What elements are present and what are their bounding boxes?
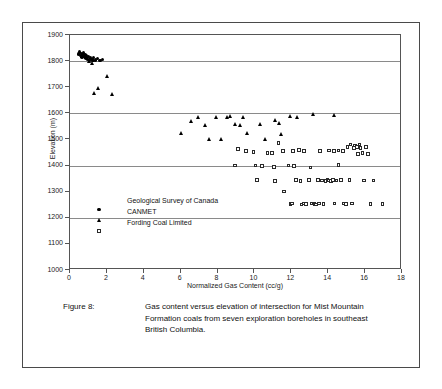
data-point-square <box>346 145 350 149</box>
x-axis-tick-label: 0 <box>57 274 81 281</box>
data-point-triangle <box>207 137 211 141</box>
data-point-triangle <box>105 74 109 78</box>
y-axis-tick-mark <box>65 34 69 35</box>
data-point-square <box>359 146 363 150</box>
x-axis-tick-mark <box>143 269 144 273</box>
chart-legend: Geological Survey of Canada CANMET Fordi… <box>85 195 245 228</box>
data-point-square <box>316 178 320 182</box>
data-point-triangle <box>295 115 299 119</box>
data-point-square <box>333 202 337 206</box>
y-axis-tick-label: 1200 <box>23 213 63 220</box>
data-point-triangle <box>273 118 277 122</box>
x-axis-tick-label: 16 <box>352 274 376 281</box>
x-axis-tick-label: 2 <box>94 274 118 281</box>
data-point-triangle <box>196 115 200 119</box>
data-point-triangle <box>203 123 207 127</box>
y-axis-tick-label: 1000 <box>23 266 63 273</box>
data-point-circle <box>82 51 85 54</box>
y-axis-tick-label: 1800 <box>23 57 63 64</box>
data-point-circle <box>87 55 90 58</box>
data-point-triangle <box>241 115 245 119</box>
data-point-square <box>381 202 385 206</box>
data-point-square <box>297 148 301 152</box>
data-point-square <box>342 202 346 206</box>
data-point-square <box>331 178 335 182</box>
data-point-square <box>329 179 333 183</box>
data-point-circle <box>89 56 92 59</box>
data-point-square <box>341 149 345 153</box>
data-point-circle <box>96 57 99 60</box>
x-axis-tick-mark <box>364 269 365 273</box>
legend-item-label: Fording Coal Limited <box>127 217 192 228</box>
square-marker-icon <box>99 222 101 233</box>
data-point-square <box>355 145 359 149</box>
data-point-square <box>324 179 328 183</box>
data-point-triangle <box>233 122 237 126</box>
x-axis-tick-mark <box>217 269 218 273</box>
data-point-triangle <box>92 91 96 95</box>
data-point-square <box>327 179 331 183</box>
data-point-square <box>362 179 366 183</box>
data-point-square <box>352 146 356 150</box>
data-point-square <box>302 202 306 206</box>
x-axis-tick-mark <box>106 269 107 273</box>
data-point-triangle <box>225 115 229 119</box>
x-axis-tick-mark <box>401 269 402 273</box>
y-axis-tick-mark <box>65 112 69 113</box>
data-point-triangle <box>288 114 292 118</box>
data-point-triangle <box>238 123 242 127</box>
data-point-square <box>299 179 303 183</box>
legend-item: Fording Coal Limited <box>85 217 245 228</box>
data-point-triangle <box>245 131 249 135</box>
x-axis-tick-mark <box>290 269 291 273</box>
gridline-y <box>70 113 400 114</box>
data-point-square <box>350 202 354 206</box>
data-point-square <box>344 202 348 206</box>
data-point-triangle <box>279 132 283 136</box>
x-axis-tick-mark <box>327 269 328 273</box>
data-point-square <box>289 202 293 206</box>
x-axis-tick-mark <box>253 269 254 273</box>
data-point-triangle <box>110 92 114 96</box>
y-axis-tick-mark <box>65 217 69 218</box>
y-axis-tick-mark <box>65 243 69 244</box>
data-point-circle <box>85 54 88 57</box>
data-point-circle <box>78 50 81 53</box>
data-point-square <box>348 178 352 182</box>
data-point-circle <box>81 53 84 56</box>
x-axis-title: Normalized Gas Content (cc/g) <box>69 282 401 289</box>
data-point-square <box>266 151 270 155</box>
data-point-circle <box>92 56 95 59</box>
y-axis-tick-mark <box>65 138 69 139</box>
data-point-square <box>277 141 281 145</box>
chart-region: Elevation (m) 10001100120013001400150016… <box>23 23 421 285</box>
y-axis-tick-mark <box>65 165 69 166</box>
legend-item-label: Geological Survey of Canada <box>127 195 218 206</box>
x-axis-tick-label: 18 <box>389 274 413 281</box>
data-point-square <box>290 202 294 206</box>
data-point-triangle <box>214 115 218 119</box>
data-point-square <box>366 152 370 156</box>
data-point-square <box>332 149 336 153</box>
data-point-square <box>364 145 368 149</box>
x-axis-tick-mark <box>69 269 70 273</box>
x-axis-tick-label: 12 <box>278 274 302 281</box>
data-point-square <box>282 190 286 194</box>
data-point-square <box>281 149 285 153</box>
data-point-circle <box>77 52 80 55</box>
data-point-triangle <box>258 122 262 126</box>
data-point-square <box>255 178 259 182</box>
y-axis-tick-mark <box>65 60 69 61</box>
figure-frame: Elevation (m) 10001100120013001400150016… <box>22 22 420 368</box>
data-point-circle <box>84 56 87 59</box>
x-axis-tick-mark <box>180 269 181 273</box>
data-point-square <box>252 150 256 154</box>
x-axis-tick-label: 10 <box>241 274 265 281</box>
legend-item: CANMET <box>85 206 245 217</box>
y-axis-tick-mark <box>65 86 69 87</box>
data-point-square <box>349 143 353 147</box>
data-point-square <box>317 202 321 206</box>
data-point-triangle <box>96 86 100 90</box>
data-point-square <box>294 178 298 182</box>
x-axis-tick-label: 14 <box>315 274 339 281</box>
